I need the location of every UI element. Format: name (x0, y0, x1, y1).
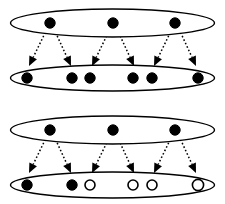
figure-root (0, 0, 225, 204)
node-d4[interactable] (128, 180, 138, 190)
node-a3[interactable] (170, 18, 180, 28)
node-c1[interactable] (45, 125, 55, 135)
node-a1[interactable] (45, 18, 55, 28)
node-c3[interactable] (170, 125, 180, 135)
lower-panel-bottom-ellipse-outline (11, 172, 215, 198)
lower-panel-top-ellipse (11, 116, 215, 144)
panels-layer (11, 9, 215, 198)
lower-panel (11, 116, 215, 198)
node-b2[interactable] (67, 73, 77, 83)
arrow-a1-b1 (29, 29, 47, 66)
node-d1[interactable] (22, 180, 32, 190)
node-d2[interactable] (67, 180, 77, 190)
arrow-c3-d6 (179, 136, 196, 173)
arrow-c1-d1 (29, 136, 47, 173)
upper-panel-bottom-ellipse (11, 65, 215, 91)
node-c2[interactable] (108, 125, 118, 135)
node-d3[interactable] (85, 180, 95, 190)
node-b5[interactable] (147, 73, 157, 83)
node-b3[interactable] (85, 73, 95, 83)
upper-panel-top-ellipse (11, 9, 215, 37)
node-b1[interactable] (22, 73, 32, 83)
node-d6[interactable] (192, 179, 203, 190)
node-b4[interactable] (128, 73, 138, 83)
node-d5[interactable] (147, 180, 157, 190)
node-a2[interactable] (108, 18, 118, 28)
diagram-canvas (0, 0, 225, 204)
lower-panel-bottom-ellipse (11, 172, 215, 198)
node-b6[interactable] (193, 73, 203, 83)
upper-panel (11, 9, 215, 91)
upper-panel-bottom-ellipse-outline (11, 65, 215, 91)
arrow-a3-b6 (179, 29, 196, 66)
